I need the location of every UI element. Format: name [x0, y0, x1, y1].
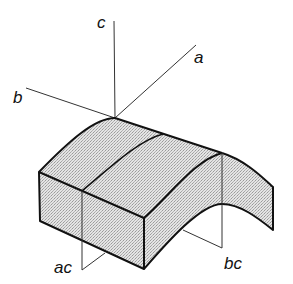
- bc-section-diagonal: [183, 230, 222, 248]
- arched-block-figure: [0, 0, 293, 284]
- ac-section-label: ac: [54, 259, 72, 276]
- c-axis: [114, 21, 115, 118]
- ac-section-diagonal: [82, 253, 105, 270]
- bc-section-label: bc: [224, 255, 242, 272]
- b-axis: [26, 88, 115, 118]
- axes: [26, 21, 196, 118]
- b-axis-label: b: [13, 89, 22, 106]
- a-axis-label: a: [194, 49, 203, 66]
- a-axis: [115, 45, 196, 118]
- diagram-canvas: c a b ac bc: [0, 0, 293, 284]
- c-axis-label: c: [97, 14, 106, 31]
